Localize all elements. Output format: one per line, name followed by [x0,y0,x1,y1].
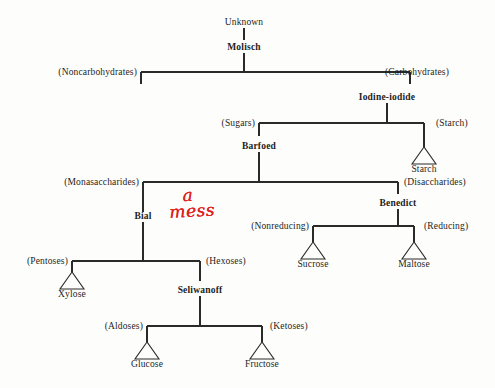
handwritten-annotation: a mess [168,186,215,221]
class-starch: (Starch) [436,119,468,129]
class-sugars: (Sugars) [222,119,255,129]
flowchart-connector-lines [0,0,495,388]
terminal-maltose: Maltose [398,260,430,270]
terminal-fructose: Fructose [245,360,279,370]
triangle-starch [412,147,436,164]
reagent-barfoed: Barfoed [242,142,276,152]
terminal-glucose: Glucose [131,360,163,370]
handwritten-annotation-line2: mess [169,202,215,221]
class-disaccharides: (Disaccharides) [404,178,466,188]
class-aldoses: (Aldoses) [105,322,143,332]
class-hexoses: (Hexoses) [206,257,246,267]
terminal-xylose: Xylose [58,290,86,300]
triangle-sucrose [301,242,325,259]
terminal-sucrose: Sucrose [297,260,328,270]
class-ketoses: (Ketoses) [270,322,308,332]
class-nonreducing: (Nonreducing) [251,222,309,232]
class-carbohydrates: (Carbohydrates) [385,68,449,78]
class-reducing: (Reducing) [424,222,468,232]
triangle-glucose [135,342,159,359]
terminal-starch: Starch [411,165,436,175]
class-monosaccharides: (Monasaccharides) [64,178,139,188]
class-noncarbohydrates: (Noncarbohydrates) [58,68,137,78]
triangle-fructose [250,342,274,359]
triangle-maltose [402,242,426,259]
reagent-benedict: Benedict [380,199,417,209]
reagent-bial: Bial [131,212,154,222]
reagent-seliwanoff: Seliwanoff [175,286,226,296]
triangle-xylose [60,272,84,289]
class-pentoses: (Pentoses) [27,257,68,267]
node-unknown: Unknown [225,18,264,28]
reagent-molisch: Molisch [227,43,261,53]
flowchart-page: Unknown Molisch Iodine-iodide Barfoed Bi… [0,0,495,388]
reagent-iodine-iodide: Iodine-iodide [359,93,415,103]
